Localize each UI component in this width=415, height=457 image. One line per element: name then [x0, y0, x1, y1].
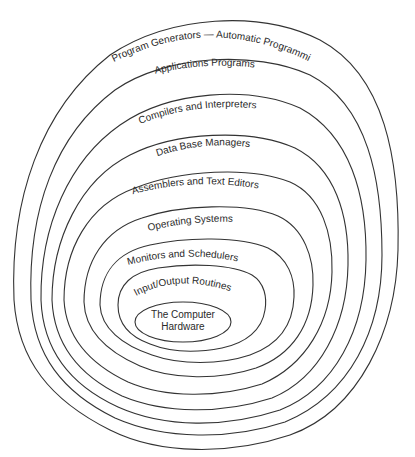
layer-label-applications: Applications Programs	[153, 57, 255, 76]
layer-label-monitors: Monitors and Schedulers	[126, 248, 240, 267]
layer-label-compilers: Compilers and Interpreters	[137, 98, 257, 126]
layer-label-assemblers: Assemblers and Text Editors	[131, 175, 260, 196]
layer-label-input-output: Input/Output Routines	[132, 274, 233, 297]
layer-outline-program-generators	[14, 21, 399, 450]
software-layers-diagram: Program Generators — Automatic Programmi…	[0, 0, 415, 457]
core-label-line1: The Computer	[151, 309, 216, 320]
layer-label-data-base-managers: Data Base Managers	[154, 136, 251, 158]
layer-label-operating-systems: Operating Systems	[146, 213, 233, 233]
layer-outline-applications	[31, 59, 382, 435]
core-label-line2: Hardware	[161, 321, 205, 332]
